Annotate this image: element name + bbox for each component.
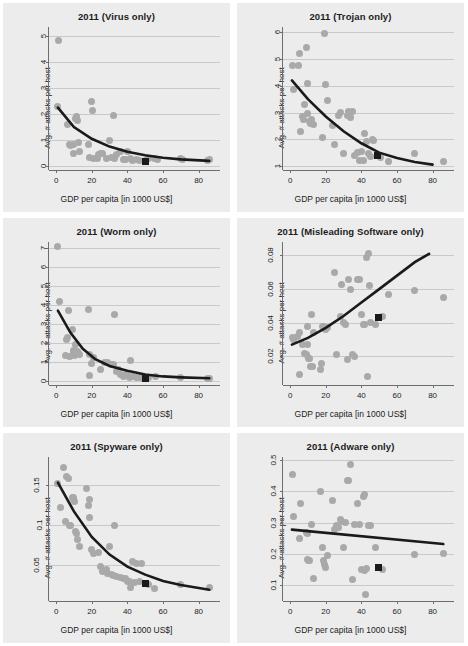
trend-curve: [283, 27, 454, 170]
x-axis-label: GDP per capita [in 1000 US$]: [237, 194, 464, 204]
y-tick-label: 5: [41, 32, 45, 41]
x-axis-line: [283, 601, 454, 602]
x-tick-label: 40: [123, 176, 132, 185]
trend-curve: [283, 242, 454, 385]
y-tick-label: 4: [41, 300, 45, 309]
y-tick-label: 4: [41, 58, 45, 67]
y-tick-label: 0.1: [268, 581, 279, 590]
plot-area: 012345020406080: [49, 27, 220, 170]
y-tick-label: 1: [41, 136, 45, 145]
x-tick-label: 60: [159, 391, 168, 400]
panel-background: 2011 (Virus only)Avg. # attacks per host…: [3, 3, 230, 212]
plot-area: 01234567020406080: [49, 242, 220, 385]
y-tick-label: 3: [41, 84, 45, 93]
chart-panel: 2011 (Adware only)Avg. # attacks per hos…: [234, 430, 468, 646]
x-tick-label: 20: [321, 391, 330, 400]
chart-panel: 2011 (Misleading Software only)Avg. # at…: [234, 215, 468, 430]
x-axis-label: GDP per capita [in 1000 US$]: [3, 409, 230, 419]
panel-background: 2011 (Trojan only)Avg. # attacks per hos…: [237, 3, 464, 212]
y-tick-label: 3: [41, 319, 45, 328]
trend-curve: [49, 242, 220, 385]
y-tick-label: 0.4: [268, 487, 279, 496]
x-tick-label: 40: [123, 607, 132, 616]
x-tick-label: 0: [54, 607, 58, 616]
x-tick-label: 40: [123, 391, 132, 400]
y-tick-label: 0.2: [268, 550, 279, 559]
trend-curve: [49, 457, 220, 601]
x-axis-label: GDP per capita [in 1000 US$]: [237, 409, 464, 419]
panel-title: 2011 (Worm only): [3, 226, 230, 237]
chart-panel: 2011 (Spyware only)Avg. # attacks per ho…: [0, 430, 234, 646]
x-axis-label: GDP per capita [in 1000 US$]: [237, 625, 464, 635]
y-tick-label: 0.04: [263, 318, 279, 327]
highlight-marker: [142, 580, 149, 587]
y-tick-label: 3: [275, 108, 279, 117]
plot-area: 0.050.10.15020406080: [49, 457, 220, 601]
x-axis-line: [49, 170, 220, 171]
y-tick-label: 1: [41, 358, 45, 367]
x-tick-label: 80: [194, 607, 203, 616]
y-tick-label: 0.02: [263, 352, 279, 361]
x-tick-label: 0: [54, 391, 58, 400]
y-tick-label: 0.06: [263, 285, 279, 294]
highlight-marker: [375, 314, 382, 321]
x-tick-label: 20: [87, 607, 96, 616]
panel-background: 2011 (Misleading Software only)Avg. # at…: [237, 218, 464, 427]
x-tick-label: 0: [54, 176, 58, 185]
y-tick-label: 6: [41, 262, 45, 271]
x-tick-label: 80: [428, 391, 437, 400]
x-tick-label: 20: [87, 176, 96, 185]
x-tick-label: 20: [321, 176, 330, 185]
x-tick-label: 0: [288, 607, 292, 616]
y-tick-label: 4: [275, 81, 279, 90]
plot-area: 0.020.040.060.08020406080: [283, 242, 454, 385]
y-tick-label: 0.05: [29, 561, 45, 570]
plot-area: 123456020406080: [283, 27, 454, 170]
x-axis-line: [283, 170, 454, 171]
x-axis-line: [283, 385, 454, 386]
panel-background: 2011 (Adware only)Avg. # attacks per hos…: [237, 433, 464, 643]
x-tick-label: 20: [321, 607, 330, 616]
x-tick-label: 40: [357, 607, 366, 616]
y-tick-label: 0.3: [268, 518, 279, 527]
figure-grid: 2011 (Virus only)Avg. # attacks per host…: [0, 0, 468, 646]
panel-title: 2011 (Adware only): [237, 441, 464, 452]
x-tick-label: 80: [428, 607, 437, 616]
x-tick-label: 60: [393, 176, 402, 185]
y-tick-label: 0: [41, 377, 45, 386]
chart-panel: 2011 (Virus only)Avg. # attacks per host…: [0, 0, 234, 215]
y-tick-label: 5: [41, 281, 45, 290]
highlight-marker: [142, 158, 149, 165]
y-tick-label: 0.08: [263, 251, 279, 260]
x-tick-label: 80: [194, 391, 203, 400]
y-tick-label: 1: [275, 161, 279, 170]
panel-title: 2011 (Spyware only): [3, 441, 230, 452]
panel-background: 2011 (Spyware only)Avg. # attacks per ho…: [3, 433, 230, 643]
y-tick-label: 5: [275, 55, 279, 64]
x-tick-label: 80: [428, 176, 437, 185]
y-tick-label: 7: [41, 243, 45, 252]
y-tick-label: 2: [41, 339, 45, 348]
x-axis-label: GDP per capita [in 1000 US$]: [3, 625, 230, 635]
y-tick-label: 0.15: [29, 481, 45, 490]
y-tick-label: 2: [275, 135, 279, 144]
x-tick-label: 60: [159, 176, 168, 185]
chart-panel: 2011 (Trojan only)Avg. # attacks per hos…: [234, 0, 468, 215]
y-tick-label: 6: [275, 28, 279, 37]
panel-title: 2011 (Virus only): [3, 11, 230, 22]
x-tick-label: 40: [357, 176, 366, 185]
x-axis-line: [49, 385, 220, 386]
x-tick-label: 20: [87, 391, 96, 400]
x-tick-label: 60: [393, 391, 402, 400]
y-tick-label: 2: [41, 110, 45, 119]
y-tick-label: 0: [41, 162, 45, 171]
highlight-marker: [375, 564, 382, 571]
x-tick-label: 80: [194, 176, 203, 185]
trend-curve: [283, 457, 454, 601]
trend-curve: [49, 27, 220, 170]
chart-panel: 2011 (Worm only)Avg. # attacks per hostG…: [0, 215, 234, 430]
panel-background: 2011 (Worm only)Avg. # attacks per hostG…: [3, 218, 230, 427]
highlight-marker: [374, 152, 381, 159]
x-tick-label: 0: [288, 391, 292, 400]
y-tick-label: 0.5: [268, 456, 279, 465]
